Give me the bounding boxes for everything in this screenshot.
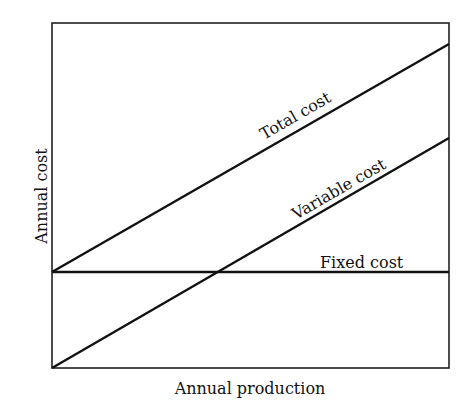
plot-frame	[52, 23, 449, 368]
y-axis-label: Annual cost	[32, 148, 51, 245]
total-cost-line	[52, 44, 449, 272]
cost-diagram: Total cost Variable cost Fixed cost Annu…	[0, 0, 474, 406]
variable-cost-label: Variable cost	[288, 154, 390, 224]
x-axis-label: Annual production	[174, 379, 326, 398]
fixed-cost-label: Fixed cost	[320, 253, 404, 272]
